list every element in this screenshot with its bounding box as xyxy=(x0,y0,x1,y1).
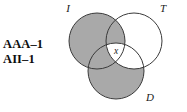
venn-diagram-figure: AAA–1 AII–1 xyxy=(0,0,187,112)
circle-label-T: T xyxy=(160,2,167,14)
venn-shaded-regions xyxy=(69,13,144,99)
circle-label-I: I xyxy=(65,2,71,14)
venn-three-circle-svg: I T D x xyxy=(0,0,187,112)
center-x-mark: x xyxy=(113,46,119,56)
circle-label-D: D xyxy=(145,91,154,103)
